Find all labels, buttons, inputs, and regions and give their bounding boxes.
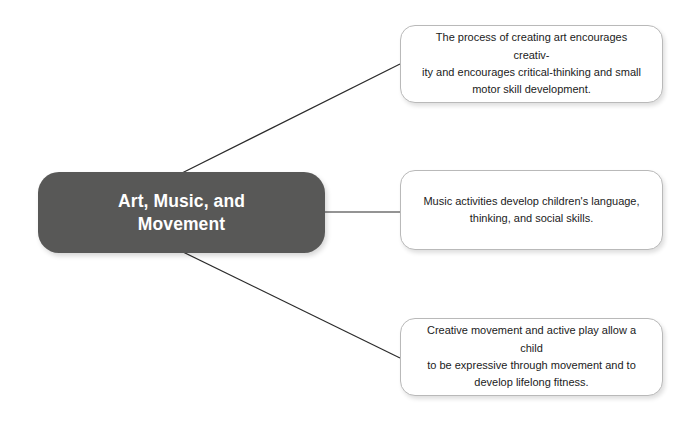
branch-node-art-text: The process of creating art encourages c… [401, 29, 662, 99]
central-node-label: Art, Music, and Movement [106, 190, 257, 235]
connector-to-movement [183, 252, 400, 358]
branch-node-music-text: Music activities develop children's lang… [405, 193, 657, 228]
central-node[interactable]: Art, Music, and Movement [38, 172, 325, 253]
branch-node-movement-text: Creative movement and active play allow … [401, 322, 662, 392]
branch-node-art[interactable]: The process of creating art encourages c… [400, 25, 663, 103]
connector-to-art [182, 64, 400, 173]
branch-node-movement[interactable]: Creative movement and active play allow … [400, 318, 663, 396]
branch-node-music[interactable]: Music activities develop children's lang… [400, 170, 663, 250]
diagram-canvas: Art, Music, and Movement The process of … [0, 0, 698, 428]
